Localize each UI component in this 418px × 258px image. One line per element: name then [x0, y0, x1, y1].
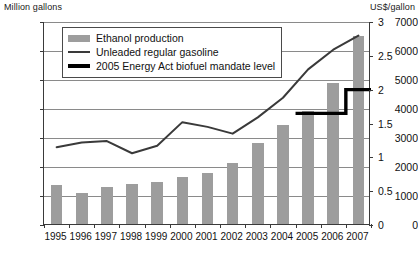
y-tick-right [369, 56, 373, 57]
x-tick-label: 2003 [246, 231, 268, 242]
legend-item: Ethanol production [68, 31, 275, 45]
x-tick [220, 224, 221, 228]
x-tick-label: 2002 [221, 231, 243, 242]
x-tick-label: 2000 [170, 231, 192, 242]
x-tick-label: 2006 [321, 231, 343, 242]
x-tick [346, 224, 347, 228]
y-tick-label-left: 0 [382, 219, 418, 231]
y-tick-label-right: 2.5 [378, 50, 393, 62]
ethanol-production-chart: Million gallons US$/gallon 0100020003000… [0, 0, 418, 258]
x-tick-label: 1996 [70, 231, 92, 242]
y-tick-label-left: 2000 [382, 161, 418, 173]
legend-item-label: 2005 Energy Act biofuel mandate level [96, 60, 275, 72]
x-tick-label: 2001 [195, 231, 217, 242]
x-tick [44, 224, 45, 228]
y-tick-left [40, 167, 44, 168]
x-tick [195, 224, 196, 228]
legend-item: 2005 Energy Act biofuel mandate level [68, 59, 275, 73]
x-tick [170, 224, 171, 228]
x-tick [245, 224, 246, 228]
y-tick-right [369, 157, 373, 158]
legend-item-label: Unleaded regular gasoline [96, 46, 219, 58]
thin-line-icon [68, 51, 90, 54]
legend-item-label: Ethanol production [96, 32, 184, 44]
x-tick-label: 1997 [95, 231, 117, 242]
y-tick-label-right: 2 [378, 84, 384, 96]
y-tick-label-right: 0.5 [378, 185, 393, 197]
x-tick-label: 2007 [346, 231, 368, 242]
x-tick [270, 224, 271, 228]
x-tick-label: 1998 [120, 231, 142, 242]
y-tick-label-left: 4000 [382, 103, 418, 115]
x-tick-label: 2004 [271, 231, 293, 242]
y-tick-right [369, 191, 373, 192]
x-tick [119, 224, 120, 228]
x-tick-label: 1999 [145, 231, 167, 242]
legend-item: Unleaded regular gasoline [68, 45, 275, 59]
x-tick-label: 1995 [44, 231, 66, 242]
x-tick [321, 224, 322, 228]
left-axis-title: Million gallons [4, 2, 62, 12]
y-tick-label-left: 3000 [382, 132, 418, 144]
y-tick-left [40, 51, 44, 52]
right-axis-title: US$/gallon [370, 2, 415, 12]
y-tick-left [40, 80, 44, 81]
x-tick [296, 224, 297, 228]
x-tick [145, 224, 146, 228]
y-tick-right [369, 124, 373, 125]
thick-line-icon [68, 64, 90, 68]
y-tick-left [40, 109, 44, 110]
x-tick [371, 224, 372, 228]
y-tick-label-right: 3 [378, 16, 384, 28]
y-tick-left [40, 196, 44, 197]
y-tick-right [369, 22, 373, 23]
x-tick-label: 2005 [296, 231, 318, 242]
y-tick-left [40, 22, 44, 23]
y-tick-right [369, 90, 373, 91]
bar-swatch-icon [68, 35, 90, 42]
y-tick-label-right: 1.5 [378, 118, 393, 130]
x-tick [94, 224, 95, 228]
y-tick-label-right: 0 [378, 219, 384, 231]
chart-legend: Ethanol productionUnleaded regular gasol… [62, 27, 282, 78]
biofuel-mandate-step-line [296, 90, 371, 114]
y-tick-label-left: 5000 [382, 74, 418, 86]
y-tick-left [40, 138, 44, 139]
x-tick [69, 224, 70, 228]
y-tick-label-right: 1 [378, 151, 384, 163]
y-tick-label-left: 7000 [382, 16, 418, 28]
